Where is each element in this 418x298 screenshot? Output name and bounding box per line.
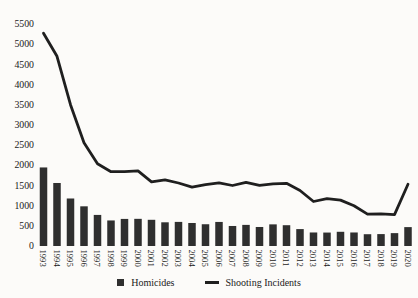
x-tick-label: 2004	[187, 250, 197, 268]
x-tick-label: 2006	[214, 250, 224, 268]
x-tick-label: 1999	[119, 250, 129, 267]
legend-item-homicides: Homicides	[117, 277, 174, 288]
homicides-shootings-chart: 0500100015002000250030003500400045005000…	[0, 0, 418, 298]
y-tick-label: 3000	[14, 119, 34, 130]
legend-label-homicides: Homicides	[131, 277, 174, 288]
x-tick-label: 2014	[322, 250, 332, 268]
y-tick-label: 1000	[14, 200, 34, 211]
x-tick-label: 2008	[241, 250, 251, 267]
bar-2005	[202, 224, 210, 246]
y-tick-label: 1500	[14, 180, 34, 191]
x-tick-label: 1996	[79, 250, 89, 268]
chart-plot-area: 0500100015002000250030003500400045005000…	[0, 0, 418, 272]
bar-2015	[337, 232, 345, 246]
bar-2013	[310, 232, 318, 246]
x-tick-label: 2018	[376, 250, 386, 267]
x-tick-label: 1998	[106, 250, 116, 267]
bar-1995	[67, 198, 75, 246]
y-tick-label: 4500	[14, 59, 34, 70]
y-tick-label: 4000	[14, 79, 34, 90]
bar-1994	[53, 183, 61, 246]
x-tick-label: 2020	[403, 250, 413, 267]
bar-2014	[323, 233, 331, 246]
y-tick-label: 5000	[14, 38, 34, 49]
bar-2006	[215, 222, 223, 246]
x-tick-label: 1994	[52, 250, 62, 268]
y-tick-label: 2000	[14, 159, 34, 170]
x-tick-label: 2007	[227, 250, 237, 268]
shooting-incidents-line-swatch-icon	[205, 281, 219, 284]
x-tick-label: 1995	[65, 250, 75, 267]
y-tick-label: 0	[29, 240, 34, 251]
bar-2012	[296, 229, 304, 246]
bar-2018	[377, 234, 385, 246]
x-tick-label: 1993	[38, 250, 48, 267]
bar-2011	[283, 225, 291, 246]
bar-2017	[364, 234, 372, 246]
bar-2019	[391, 233, 399, 246]
bar-2002	[161, 222, 169, 246]
bar-2010	[269, 224, 277, 246]
x-tick-label: 2013	[308, 250, 318, 267]
bar-2007	[229, 226, 237, 246]
x-tick-label: 2005	[200, 250, 210, 267]
x-tick-label: 2010	[268, 250, 278, 267]
legend: Homicides Shooting Incidents	[0, 270, 418, 294]
y-tick-label: 3500	[14, 99, 34, 110]
bar-2008	[242, 225, 250, 246]
bar-1997	[94, 215, 102, 246]
shooting-incidents-line	[44, 33, 409, 214]
x-tick-label: 2016	[349, 250, 359, 268]
bar-1999	[121, 219, 129, 246]
bar-2004	[188, 223, 196, 246]
x-tick-label: 2001	[146, 250, 156, 267]
x-tick-label: 2015	[335, 250, 345, 267]
bar-2016	[350, 232, 358, 246]
x-tick-label: 2003	[173, 250, 183, 267]
bar-2020	[404, 227, 412, 246]
x-tick-label: 1997	[92, 250, 102, 268]
bar-2001	[148, 220, 156, 246]
x-tick-label: 2019	[389, 250, 399, 267]
y-tick-label: 2500	[14, 139, 34, 150]
x-tick-label: 2017	[362, 250, 372, 268]
legend-label-shooting-incidents: Shooting Incidents	[226, 277, 301, 288]
x-tick-label: 2012	[295, 250, 305, 267]
x-tick-label: 2011	[281, 250, 291, 267]
y-tick-label: 500	[19, 220, 34, 231]
x-tick-label: 2009	[254, 250, 264, 267]
bar-2003	[175, 222, 183, 246]
x-tick-label: 2002	[160, 250, 170, 267]
homicides-bar-swatch-icon	[117, 279, 124, 286]
bar-2000	[134, 219, 142, 246]
bar-1993	[40, 167, 48, 246]
x-tick-label: 2000	[133, 250, 143, 267]
bar-1998	[107, 220, 115, 246]
bar-2009	[256, 227, 264, 246]
bar-1996	[80, 206, 88, 246]
legend-item-shooting-incidents: Shooting Incidents	[205, 277, 301, 288]
y-tick-label: 5500	[14, 18, 34, 29]
